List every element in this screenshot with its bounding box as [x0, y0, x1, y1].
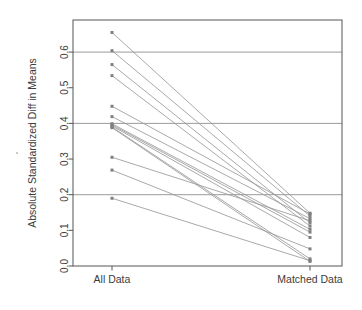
- series-line: [112, 198, 310, 260]
- data-point-marker: [111, 156, 114, 159]
- data-point-marker: [111, 115, 114, 118]
- data-point-marker: [111, 49, 114, 52]
- plot-border: [73, 20, 342, 266]
- data-point-marker: [309, 259, 312, 262]
- data-point-marker: [309, 247, 312, 250]
- data-point-marker: [111, 105, 114, 108]
- y-axis-tick-label: 0.0: [59, 259, 70, 273]
- data-point-marker: [309, 225, 312, 228]
- data-point-marker: [111, 197, 114, 200]
- data-point-marker: [111, 169, 114, 172]
- balance-line-chart: 0.00.10.20.30.40.50.6 All DataMatched Da…: [0, 0, 362, 310]
- x-axis: All DataMatched Data: [94, 266, 343, 285]
- data-point-marker: [111, 126, 114, 129]
- balance-plot-root: 0.00.10.20.30.40.50.6 All DataMatched Da…: [0, 0, 362, 310]
- series-line: [112, 124, 310, 230]
- y-axis-tick-label: 0.4: [59, 116, 70, 130]
- data-point-marker: [111, 31, 114, 34]
- data-point-marker: [309, 212, 312, 215]
- y-axis: 0.00.10.20.30.40.50.6: [59, 45, 73, 273]
- series-line: [112, 125, 310, 232]
- chart-series-lines: [112, 32, 310, 261]
- y-axis-tick-label: 0.5: [59, 80, 70, 94]
- series-line: [112, 51, 310, 216]
- y-axis-tick-label: 0.6: [59, 45, 70, 59]
- y-axis-tick-label: 0.2: [59, 187, 70, 201]
- series-line: [112, 127, 310, 259]
- y-axis-tick-label: 0.1: [59, 223, 70, 237]
- x-axis-category-label: Matched Data: [277, 273, 343, 285]
- data-point-marker: [111, 74, 114, 77]
- x-axis-category-label: All Data: [94, 273, 131, 285]
- y-axis-title-label: Absolute Standardized Diff in Means: [26, 58, 38, 228]
- data-point-marker: [309, 236, 312, 239]
- series-line: [112, 117, 310, 219]
- y-axis-tick-label: 0.3: [59, 152, 70, 166]
- data-point-marker: [309, 219, 312, 222]
- data-point-marker: [111, 63, 114, 66]
- data-point-marker: [309, 231, 312, 234]
- series-line: [112, 65, 310, 223]
- y-axis-title: Absolute Standardized Diff in Means: [26, 58, 38, 228]
- plot-frame: [73, 20, 342, 266]
- data-point-marker: [309, 228, 312, 231]
- series-line: [112, 157, 310, 220]
